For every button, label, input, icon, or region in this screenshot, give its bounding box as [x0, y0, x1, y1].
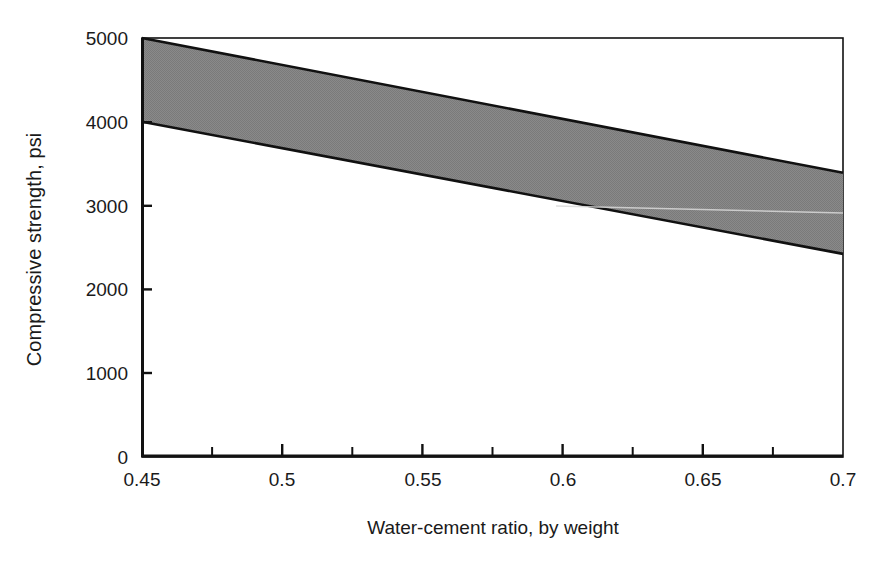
plot-area: [0, 0, 890, 567]
x-axis-title: Water-cement ratio, by weight: [142, 517, 844, 539]
chart-figure: Compressive strength, psi 5000 4000 3000…: [0, 0, 890, 567]
